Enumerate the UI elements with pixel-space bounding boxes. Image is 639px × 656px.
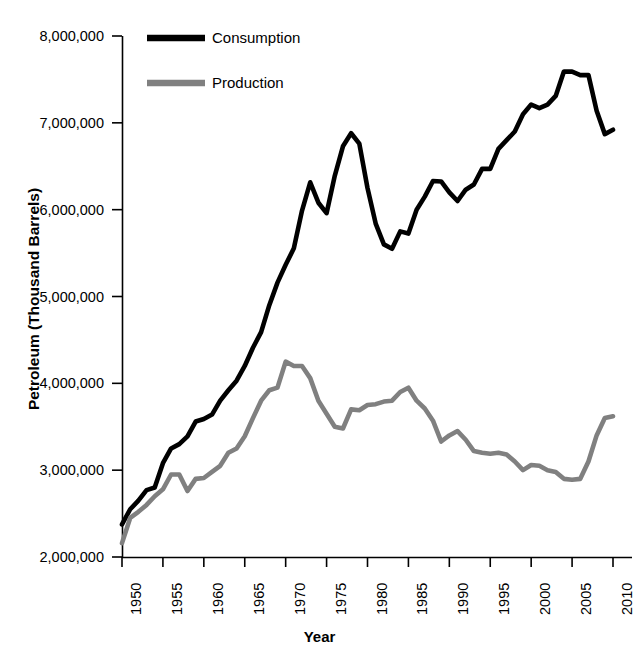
y-axis-tick-label: 6,000,000	[4, 202, 104, 218]
legend-label-production: Production	[212, 74, 284, 91]
x-axis-tick-label: 1980	[374, 583, 390, 615]
y-axis-tick-label: 5,000,000	[4, 289, 104, 305]
x-axis-tick-label: 1975	[333, 583, 349, 615]
y-axis-ticks	[112, 36, 122, 557]
x-axis-tick-label: 1995	[496, 583, 512, 615]
x-axis-tick-label: 1990	[455, 583, 471, 615]
x-axis-tick-label: 1960	[210, 583, 226, 615]
petroleum-line-chart: 8,000,0007,000,0006,000,0005,000,0004,00…	[0, 0, 639, 656]
x-axis-tick-label: 1965	[251, 583, 267, 615]
x-axis-ticks	[122, 557, 613, 567]
y-axis-tick-label: 3,000,000	[4, 462, 104, 478]
x-axis-tick-label: 2010	[619, 583, 635, 615]
y-axis-tick-label: 4,000,000	[4, 375, 104, 391]
series-line-production	[122, 362, 613, 543]
y-axis-title: Petroleum (Thousand Barrels)	[25, 89, 43, 509]
x-axis-tick-label: 1950	[128, 583, 144, 615]
x-axis-tick-label: 1985	[414, 583, 430, 615]
x-axis-tick-label: 1970	[292, 583, 308, 615]
y-axis-tick-label: 8,000,000	[4, 28, 104, 44]
x-axis-tick-label: 2005	[578, 583, 594, 615]
series-line-consumption	[122, 72, 613, 525]
y-axis-tick-label: 7,000,000	[4, 115, 104, 131]
legend-swatches	[147, 38, 205, 83]
x-axis-tick-label: 1955	[169, 583, 185, 615]
legend-label-consumption: Consumption	[212, 29, 300, 46]
x-axis-tick-label: 2000	[537, 583, 553, 615]
data-series-group	[122, 72, 613, 544]
x-axis-title: Year	[0, 628, 639, 645]
y-axis-tick-label: 2,000,000	[4, 549, 104, 565]
